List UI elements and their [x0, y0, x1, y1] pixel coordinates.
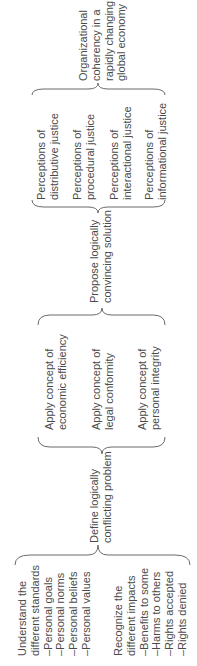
outcome-line: coherency in a — [90, 1, 103, 81]
standards-item: –Personal values — [80, 565, 93, 656]
define-problem-line: conflicting problem — [101, 451, 114, 543]
impacts-heading-line: Recognize the — [112, 568, 125, 656]
brace-5 — [32, 83, 165, 95]
standards-item: –Personal norms — [54, 565, 67, 656]
perceptions-line: Perceptions of — [108, 106, 121, 200]
justice-flow-diagram: Understand the different standards –Pers… — [0, 0, 197, 666]
standards-heading-line: Understand the — [16, 565, 29, 656]
impacts-heading-line: different impacts — [125, 568, 138, 656]
standards-heading-line: different standards — [29, 565, 42, 656]
impacts-item: –Rights accepted — [163, 568, 176, 656]
perceptions-line: procedural justice — [84, 114, 97, 200]
brace-1 — [15, 545, 190, 565]
standards-item: –Personal beliefs — [67, 565, 80, 656]
perceptions-line: interactional justice — [121, 106, 134, 200]
perceptions-line: Perceptions of — [71, 114, 84, 200]
outcome-line: rapidly changing — [103, 1, 116, 81]
impacts-item: –Benefits to some — [138, 568, 151, 656]
impacts-item: –Rights denied — [176, 568, 189, 656]
apply-line: personal integrity — [149, 346, 162, 430]
standards-block: Understand the different standards –Pers… — [16, 565, 93, 656]
define-problem-line: Define logically — [88, 451, 101, 543]
perceptions-line: informational justice — [156, 103, 169, 200]
propose-solution-line: convincing solution — [101, 210, 114, 303]
organizational-coherency-outcome: Organizational coherency in a rapidly ch… — [77, 1, 128, 81]
propose-solution-line: Propose logically — [88, 210, 101, 303]
apply-economic-efficiency: Apply concept of economic efficiency — [43, 334, 69, 430]
impacts-item: –Harms to others — [150, 568, 163, 656]
apply-legal-conformity: Apply concept of legal conformity — [90, 349, 116, 430]
apply-line: legal conformity — [103, 349, 116, 430]
perceptions-informational: Perceptions of informational justice — [143, 103, 169, 200]
perceptions-distributive: Perceptions of distributive justice — [35, 113, 61, 200]
perceptions-procedural: Perceptions of procedural justice — [71, 114, 97, 200]
propose-solution-label: Propose logically convincing solution — [88, 210, 114, 303]
define-problem-label: Define logically conflicting problem — [88, 451, 114, 543]
apply-line: Apply concept of — [136, 346, 149, 430]
outcome-line: global economy — [115, 1, 128, 81]
outcome-line: Organizational — [77, 1, 90, 81]
apply-line: Apply concept of — [43, 334, 56, 430]
apply-line: economic efficiency — [56, 334, 69, 430]
perceptions-interactional: Perceptions of interactional justice — [108, 106, 134, 200]
impacts-block: Recognize the different impacts –Benefit… — [112, 568, 189, 656]
standards-item: –Personal goals — [42, 565, 55, 656]
brace-3 — [38, 308, 165, 325]
perceptions-line: Perceptions of — [35, 113, 48, 200]
apply-personal-integrity: Apply concept of personal integrity — [136, 346, 162, 430]
perceptions-line: distributive justice — [48, 113, 61, 200]
apply-line: Apply concept of — [90, 349, 103, 430]
perceptions-line: Perceptions of — [143, 103, 156, 200]
